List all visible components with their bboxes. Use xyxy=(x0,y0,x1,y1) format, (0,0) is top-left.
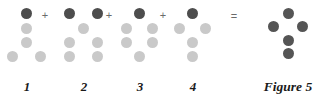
figure-caption: Figure 5 xyxy=(264,80,312,94)
group-1-dot-0 xyxy=(21,8,32,19)
group-2-dot-4 xyxy=(92,37,103,48)
group-3-dot-2 xyxy=(147,23,158,34)
plus-1-operator: + xyxy=(42,10,48,21)
group-2-dot-2 xyxy=(78,23,89,34)
result-dot-2 xyxy=(297,21,308,32)
group-3-dot-1 xyxy=(121,23,132,34)
group-label-3: 3 xyxy=(137,80,144,93)
group-3-dot-4 xyxy=(147,37,158,48)
group-label-1: 1 xyxy=(24,80,31,93)
group-4-dot-4 xyxy=(187,51,198,62)
plus-3-operator: + xyxy=(160,10,166,21)
group-2-dot-5 xyxy=(64,51,75,62)
result-dot-1 xyxy=(268,21,279,32)
group-2-dot-1 xyxy=(92,8,103,19)
group-1-dot-2 xyxy=(21,37,32,48)
group-1-dot-1 xyxy=(21,23,32,34)
plus-2-operator: + xyxy=(106,10,112,21)
group-2-dot-3 xyxy=(64,37,75,48)
group-label-2: 2 xyxy=(81,80,88,93)
group-4-dot-3 xyxy=(187,37,198,48)
group-3-dot-0 xyxy=(134,8,145,19)
group-4-dot-0 xyxy=(187,8,198,19)
group-1-dot-3 xyxy=(7,51,18,62)
group-3-dot-3 xyxy=(121,37,132,48)
result-dot-4 xyxy=(283,48,294,59)
group-2-dot-0 xyxy=(64,8,75,19)
group-2-dot-6 xyxy=(92,51,103,62)
group-3-dot-5 xyxy=(134,51,145,62)
result-dot-0 xyxy=(283,8,294,19)
group-label-4: 4 xyxy=(190,80,197,93)
result-dot-3 xyxy=(283,35,294,46)
group-4-dot-2 xyxy=(200,23,211,34)
equals-operator: = xyxy=(231,11,237,22)
group-4-dot-1 xyxy=(174,23,185,34)
group-1-dot-4 xyxy=(35,51,46,62)
figure-canvas: 1234+++=Figure 5 xyxy=(0,0,325,104)
